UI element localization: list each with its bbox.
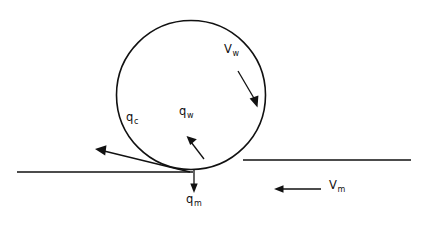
label-wall-heat-flux: qw bbox=[179, 106, 194, 120]
label-conduction-heat-flux: qc bbox=[126, 112, 138, 126]
label-mass-flux: qm bbox=[186, 194, 202, 208]
diagram-canvas: Vw qw qc qm Vm bbox=[0, 0, 423, 226]
wall-heat-flux-arrow bbox=[187, 136, 205, 159]
mainstream-velocity-arrow bbox=[274, 185, 321, 192]
conduction-heat-flux-arrow bbox=[95, 145, 190, 172]
vapor-velocity-arrow bbox=[238, 71, 258, 108]
label-vapor-velocity: Vw bbox=[224, 44, 239, 58]
droplet-circle bbox=[117, 21, 266, 170]
diagram-svg bbox=[0, 0, 423, 226]
label-mainstream-velocity: Vm bbox=[329, 180, 345, 194]
